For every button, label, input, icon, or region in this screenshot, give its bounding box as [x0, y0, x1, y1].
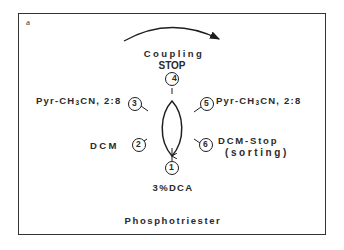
- step-number-3: 3: [132, 98, 137, 108]
- step-1-label: 3%DCA: [153, 182, 194, 193]
- cycle-diagram: [0, 0, 344, 250]
- step-number-1: 1: [169, 162, 174, 172]
- step-6-label-line1: DCM-Stop: [218, 135, 278, 146]
- step-6-label-line2: (sorting): [225, 147, 289, 158]
- stop-label: STOP: [158, 60, 185, 71]
- figure-title: Phosphotriester: [125, 215, 222, 226]
- clockwise-arrow-icon: [124, 27, 219, 41]
- step-number-4: 4: [172, 73, 177, 83]
- coupling-label: Coupling: [144, 48, 204, 59]
- step-3-label: Pyr-CH3CN, 2:8: [36, 95, 121, 106]
- cycle-lens-icon: [162, 101, 182, 156]
- step-number-2: 2: [136, 139, 141, 149]
- step-number-5: 5: [204, 98, 209, 108]
- step-5-label: Pyr-CH3CN, 2:8: [216, 95, 301, 106]
- step-number-6: 6: [203, 139, 208, 149]
- step-2-label: DCM: [90, 140, 119, 151]
